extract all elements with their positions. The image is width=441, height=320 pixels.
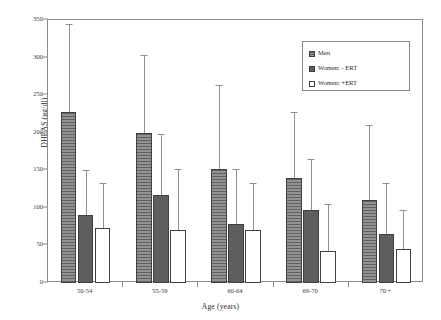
bar-wnoert-50-54 [78, 215, 94, 283]
bar-wnoert-70+ [379, 234, 395, 283]
y-tick-label: 250 [0, 91, 47, 98]
error-bar-stem [69, 24, 70, 112]
error-bar-stem [103, 183, 104, 228]
legend-label: Women: - ERT [318, 65, 357, 72]
error-bar-cap [65, 24, 72, 25]
error-bar-stem [311, 159, 312, 210]
bar-wnoert-55-59 [153, 195, 169, 283]
x-tick-label: 69-70 [303, 288, 318, 295]
y-tick-label: 50 [0, 241, 47, 248]
bar-wnoert-69-70 [303, 210, 319, 283]
x-tick-mark [197, 282, 198, 287]
error-bar-stem [236, 169, 237, 225]
bar-men-69-70 [286, 178, 302, 283]
y-tick-label: 200 [0, 128, 47, 135]
error-bar-stem [253, 183, 254, 230]
bar-wert-60-64 [245, 230, 261, 283]
y-tick-label: 0 [0, 279, 47, 286]
y-tick-label: 150 [0, 166, 47, 173]
y-tick-label: 350 [0, 16, 47, 23]
error-bar-stem [294, 112, 295, 178]
error-bar-cap [174, 169, 181, 170]
bar-chart: DHEAS (ug/dl) 050100150200250300350 50-5… [0, 0, 441, 320]
error-bar-stem [86, 170, 87, 215]
x-tick-label: 50-54 [77, 288, 92, 295]
bar-wert-70+ [396, 249, 412, 283]
legend-swatch-icon [309, 81, 315, 87]
error-bar-stem [403, 210, 404, 249]
error-bar-cap [325, 204, 332, 205]
error-bar-cap [366, 125, 373, 126]
legend-item-wnoert[interactable]: Women: - ERT [309, 62, 403, 75]
error-bar-cap [400, 210, 407, 211]
x-tick-mark [348, 282, 349, 287]
error-bar-stem [144, 55, 145, 132]
error-bar-stem [328, 204, 329, 251]
error-bar-cap [99, 183, 106, 184]
error-bar-cap [82, 170, 89, 171]
x-tick-mark [122, 282, 123, 287]
bar-wert-69-70 [320, 251, 336, 283]
bar-men-50-54 [61, 112, 77, 283]
legend-label: Women: +ERT [318, 80, 357, 87]
error-bar-stem [161, 134, 162, 195]
error-bar-stem [369, 125, 370, 200]
bar-men-55-59 [136, 133, 152, 283]
x-tick-mark [273, 282, 274, 287]
error-bar-cap [291, 112, 298, 113]
bar-wnoert-60-64 [228, 224, 244, 283]
x-axis-title: Age (years) [0, 302, 441, 311]
error-bar-stem [219, 85, 220, 168]
legend-item-wert[interactable]: Women: +ERT [309, 77, 403, 90]
legend-item-men[interactable]: Men [309, 47, 403, 60]
legend: MenWomen: - ERTWomen: +ERT [302, 41, 410, 91]
x-tick-label: 70 + [379, 288, 391, 295]
bar-wert-50-54 [95, 228, 111, 283]
x-tick-label: 55-59 [152, 288, 167, 295]
bar-wert-55-59 [170, 230, 186, 283]
y-tick-label: 300 [0, 53, 47, 60]
error-bar-cap [140, 55, 147, 56]
x-tick-label: 60-64 [227, 288, 242, 295]
error-bar-cap [383, 183, 390, 184]
bar-men-70+ [362, 200, 378, 283]
error-bar-cap [157, 134, 164, 135]
legend-swatch-icon [309, 66, 315, 72]
error-bar-stem [178, 169, 179, 231]
error-bar-stem [386, 183, 387, 234]
error-bar-cap [233, 169, 240, 170]
bar-men-60-64 [211, 169, 227, 283]
legend-swatch-icon [309, 51, 315, 57]
y-tick-label: 100 [0, 204, 47, 211]
error-bar-cap [250, 183, 257, 184]
error-bar-cap [308, 159, 315, 160]
error-bar-cap [216, 85, 223, 86]
legend-label: Men [318, 50, 330, 57]
